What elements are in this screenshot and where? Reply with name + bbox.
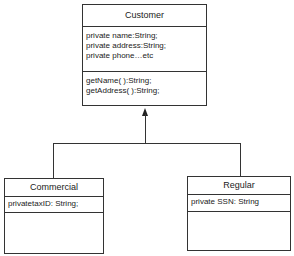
class-operations [188,212,290,216]
class-name: Regular [188,177,290,195]
class-operations [5,213,103,217]
attribute: private phone…etc [86,51,203,61]
connector-regular [240,143,241,176]
class-operations: getName( ):String; getAddress( ):String; [83,72,206,98]
class-customer: Customer private name:String; private ad… [82,4,207,106]
connector-trunk [145,114,146,144]
class-commercial: Commercial privatetaxID: String; [4,178,104,254]
class-regular: Regular private SSN: String [187,176,291,251]
attribute: privatetaxID: String; [8,199,100,209]
attribute: private SSN: String [191,197,287,207]
connector-commercial [53,143,54,178]
attribute: private address:String; [86,41,203,51]
operation: getName( ):String; [86,76,203,86]
class-name: Customer [83,5,206,27]
class-attributes: privatetaxID: String; [5,197,103,213]
class-name: Commercial [5,179,103,197]
connector-horizontal [53,143,241,144]
attribute: private name:String; [86,31,203,41]
operation: getAddress( ):String; [86,86,203,96]
class-attributes: private name:String; private address:Str… [83,27,206,72]
class-attributes: private SSN: String [188,195,290,212]
